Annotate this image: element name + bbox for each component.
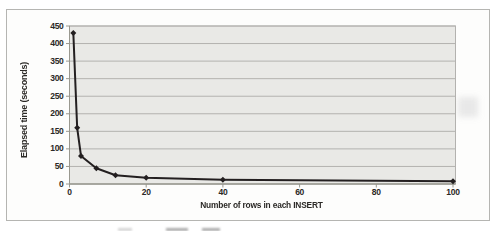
scan-artifact [166,228,188,231]
y-tick-label: 250 [30,92,64,101]
x-tick-label: 100 [440,188,466,197]
x-tick-label: 40 [210,188,236,197]
x-tick-label: 60 [287,188,313,197]
scan-artifact [118,228,132,231]
x-tick-label: 20 [133,188,159,197]
y-tick-label: 100 [30,144,64,153]
y-tick-label: 400 [30,39,64,48]
x-tick-label: 80 [363,188,389,197]
x-tick-label: 0 [57,188,83,197]
y-tick-label: 150 [30,127,64,136]
y-tick-label: 50 [30,162,64,171]
x-axis-title: Number of rows in each INSERT [82,200,440,210]
y-tick-label: 200 [30,109,64,118]
y-axis-title: Elapsed time (seconds) [19,30,29,190]
scan-artifact [202,228,220,231]
figure: 050100150200250300350400450 020406080100… [0,0,498,231]
y-tick-label: 450 [30,22,64,31]
y-tick-label: 350 [30,57,64,66]
y-tick-label: 300 [30,74,64,83]
